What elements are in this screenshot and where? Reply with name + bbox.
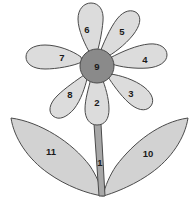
petal-bottom-left-shape[interactable] (50, 75, 87, 118)
flower-diagram-canvas: 11 10 1 6 5 4 3 (0, 0, 193, 199)
petal-bottom-right-shape[interactable] (108, 74, 153, 110)
petal-top-group[interactable]: 6 (78, 3, 103, 56)
leaf-left-group[interactable]: 11 (11, 118, 103, 196)
leaf-right-group[interactable]: 10 (103, 118, 188, 196)
petal-top-shape[interactable] (78, 3, 103, 56)
flower-diagram: 11 10 1 6 5 4 3 (0, 0, 193, 199)
leaf-left-shape[interactable] (11, 118, 103, 196)
petal-bottom-group[interactable]: 2 (85, 78, 109, 125)
petal-left-group[interactable]: 7 (26, 45, 82, 69)
petal-bottom-left-group[interactable]: 8 (50, 75, 87, 118)
petal-left-shape[interactable] (26, 45, 82, 69)
petal-bottom-right-group[interactable]: 3 (108, 74, 153, 110)
flower-center-shape[interactable] (80, 49, 114, 83)
petal-bottom-shape[interactable] (85, 78, 109, 125)
flower-center-group[interactable]: 9 (80, 49, 114, 83)
leaf-right-shape[interactable] (103, 118, 188, 196)
